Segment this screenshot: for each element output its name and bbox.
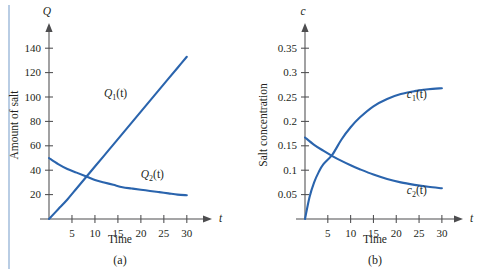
curve-q2t: [49, 158, 187, 195]
chart-b-y-axis: c 0.050.10.150.20.250.30.35 Salt concent…: [257, 5, 309, 219]
y-tick-label: 100: [25, 91, 42, 103]
panel-caption-a: (a): [113, 253, 126, 267]
y-tick-label: 40: [30, 164, 42, 176]
x-tick-label: 10: [89, 227, 101, 239]
x-axis-symbol-b: t: [470, 212, 474, 224]
y-tick-label: 120: [25, 66, 42, 78]
x-axis-arrowhead: [454, 215, 463, 222]
x-tick-label: 25: [158, 227, 170, 239]
chart-b-curves: [305, 88, 442, 219]
chart-b-y-ticks: 0.050.10.150.20.250.30.35: [278, 42, 309, 200]
x-axis-title-b: Time: [363, 233, 387, 245]
y-tick-label: 0.35: [278, 42, 298, 54]
curve-label-q1t: Q1(t): [104, 87, 127, 102]
x-tick-label: 25: [414, 227, 426, 239]
x-tick-label: 30: [181, 227, 193, 239]
y-tick-label: 0.25: [278, 91, 298, 103]
figure-root: Q 20406080100120140 Amount of salt t 510…: [0, 0, 502, 269]
x-tick-label: 5: [69, 227, 75, 239]
chart-a-curves: [49, 57, 187, 219]
y-axis-arrowhead: [301, 23, 308, 32]
x-axis-symbol-a: t: [219, 212, 223, 224]
y-axis-arrowhead: [45, 23, 52, 32]
y-tick-label: 0.3: [283, 66, 297, 78]
x-axis-arrowhead: [203, 215, 212, 222]
y-tick-label: 80: [30, 115, 42, 127]
y-tick-label: 0.1: [283, 164, 297, 176]
x-tick-label: 30: [436, 227, 448, 239]
chart-b-svg: c 0.050.10.150.20.250.30.35 Salt concent…: [251, 0, 502, 269]
curve-c1t: [305, 88, 442, 219]
x-tick-label: 5: [325, 227, 331, 239]
y-tick-label: 60: [30, 139, 42, 151]
y-tick-label: 20: [30, 188, 42, 200]
panel-a: Q 20406080100120140 Amount of salt t 510…: [0, 0, 251, 269]
y-tick-label: 140: [25, 42, 42, 54]
chart-b-x-axis: t 51015202530 Time: [296, 212, 474, 245]
chart-b-curve-labels: c1(t)c2(t): [407, 88, 427, 198]
curve-label-q2t: Q2(t): [141, 168, 164, 183]
x-axis-title-a: Time: [108, 233, 132, 245]
x-tick-label: 20: [391, 227, 403, 239]
chart-a-svg: Q 20406080100120140 Amount of salt t 510…: [0, 0, 251, 269]
curve-q1t: [49, 57, 187, 219]
x-tick-label: 10: [345, 227, 357, 239]
panel-caption-b: (b): [368, 253, 382, 267]
x-tick-label: 20: [135, 227, 147, 239]
chart-a-y-axis: Q 20406080100120140 Amount of salt: [8, 5, 53, 219]
chart-a-curve-labels: Q1(t)Q2(t): [104, 87, 164, 183]
curve-label-c2t: c2(t): [407, 184, 427, 199]
y-axis-title-b: Salt concentration: [257, 83, 269, 167]
y-tick-label: 0.15: [278, 139, 298, 151]
chart-a-x-axis: t 51015202530 Time: [40, 212, 223, 245]
panel-b: c 0.050.10.150.20.250.30.35 Salt concent…: [251, 0, 502, 269]
curve-label-c1t: c1(t): [407, 88, 427, 103]
y-axis-symbol-b: c: [300, 5, 305, 17]
y-axis-title-a: Amount of salt: [8, 90, 20, 160]
y-tick-label: 0.05: [278, 188, 298, 200]
y-axis-symbol-a: Q: [43, 5, 52, 17]
y-tick-label: 0.2: [283, 115, 297, 127]
